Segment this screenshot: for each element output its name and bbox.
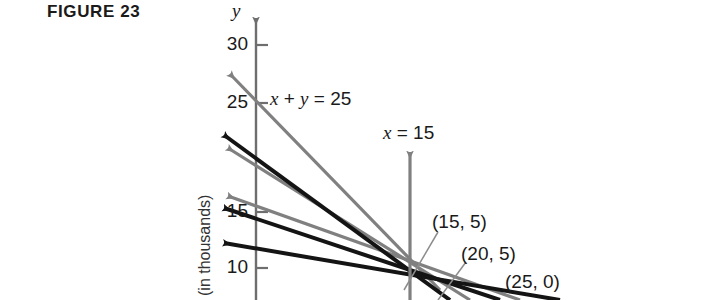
point-label-15-5: (15, 5) [432,211,487,233]
figure-container: FIGURE 23 y (in thousands) 30 25 15 10 x… [0,0,715,300]
y-axis-name: y [232,0,240,22]
y-axis-unit-label: (in thousands) [196,195,214,296]
label-rhs: 15 [413,122,434,143]
label-var-x: x [270,88,278,109]
line-label-x-equals-15: x = 15 [383,122,434,144]
y-tick-label-15: 15 [214,200,248,222]
figure-caption: FIGURE 23 [47,2,140,22]
label-var-x: x [383,122,391,143]
line-label-x-plus-y-25: x + y = 25 [270,88,351,110]
label-equals: = [314,88,325,109]
label-equals: = [397,122,408,143]
label-var-y: y [300,88,308,109]
y-tick-label-30: 30 [214,33,248,55]
label-plus: + [284,88,295,109]
point-label-25-0: (25, 0) [505,271,560,293]
point-label-20-5: (20, 5) [461,243,516,265]
figure-graphic [0,0,715,300]
y-tick-label-25: 25 [214,91,248,113]
y-tick-label-10: 10 [214,256,248,278]
label-rhs: 25 [330,88,351,109]
